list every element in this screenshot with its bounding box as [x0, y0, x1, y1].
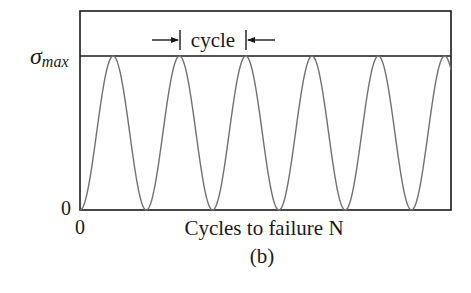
- stress-waveform: [80, 56, 451, 210]
- y-origin-label: 0: [61, 197, 71, 219]
- fatigue-cycle-diagram: cycle σmax 0 0 Cycles to failure N (b): [0, 0, 471, 293]
- y-max-label: σmax: [30, 43, 69, 70]
- panel-label: (b): [250, 244, 275, 268]
- cycle-label: cycle: [191, 28, 235, 52]
- plot-frame: [80, 11, 451, 210]
- cycle-annotation: cycle: [152, 28, 275, 52]
- x-origin-label: 0: [75, 216, 85, 238]
- x-axis-label: Cycles to failure N: [184, 216, 343, 240]
